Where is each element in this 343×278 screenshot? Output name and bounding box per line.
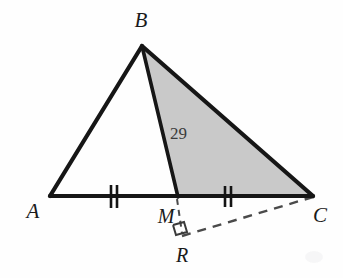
vertex-label-m: M — [157, 205, 176, 227]
figure-canvas: A B C M R 29 — [0, 0, 343, 278]
vertex-label-r: R — [175, 244, 188, 266]
vertex-label-a: A — [25, 199, 40, 223]
vertex-label-c: C — [313, 203, 328, 227]
segment-rc-dashed — [182, 197, 313, 236]
segment-ab — [50, 46, 142, 196]
segment-mr-dashed — [177, 199, 182, 233]
right-angle-mark-at-r — [173, 222, 187, 235]
vertex-label-b: B — [135, 8, 148, 32]
geometry-figure: A B C M R 29 — [0, 0, 343, 278]
angle-measure-label: 29 — [170, 124, 187, 143]
